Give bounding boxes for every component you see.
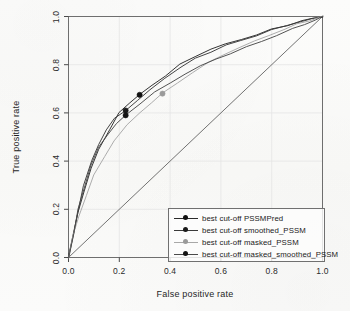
- x-tick-label: 0.8: [265, 266, 277, 276]
- x-tick-label: 0.0: [62, 266, 74, 276]
- legend-item-label: best cut-off PSSMPred: [202, 214, 283, 223]
- y-tick-label: 0.2: [51, 203, 61, 215]
- y-tick-label: 0.8: [51, 58, 61, 70]
- y-tick-label: 0.0: [51, 251, 61, 263]
- legend-marker-icon: [173, 225, 199, 235]
- x-tick-label: 0.4: [164, 266, 176, 276]
- legend-marker-icon: [173, 249, 199, 259]
- y-tick-label: 0.4: [51, 155, 61, 167]
- legend-marker-icon: [173, 213, 199, 223]
- legend-item: best cut-off masked_smoothed_PSSM: [169, 248, 324, 260]
- roc-chart-figure: 0.00.20.40.60.81.0 0.00.20.40.60.81.0 Fa…: [0, 0, 350, 311]
- x-tick-label: 1.0: [316, 266, 328, 276]
- legend-marker-icon: [173, 237, 199, 247]
- y-tick-label: 0.6: [51, 107, 61, 119]
- legend-item-label: best cut-off masked_PSSM: [202, 238, 299, 247]
- x-tick-label: 0.2: [113, 266, 125, 276]
- legend-item: best cut-off masked_PSSM: [169, 236, 324, 248]
- x-axis-title: False positive rate: [157, 289, 234, 299]
- y-tick-label: 1.0: [51, 10, 61, 22]
- y-axis-title: True positive rate: [11, 101, 21, 174]
- x-tick-label: 0.6: [215, 266, 227, 276]
- legend-item-label: best cut-off masked_smoothed_PSSM: [202, 250, 338, 259]
- chart-legend: best cut-off PSSMPred best cut-off smoot…: [168, 208, 325, 262]
- legend-item: best cut-off smoothed_PSSM: [169, 224, 324, 236]
- legend-item-label: best cut-off smoothed_PSSM: [202, 226, 306, 235]
- legend-item: best cut-off PSSMPred: [169, 212, 324, 224]
